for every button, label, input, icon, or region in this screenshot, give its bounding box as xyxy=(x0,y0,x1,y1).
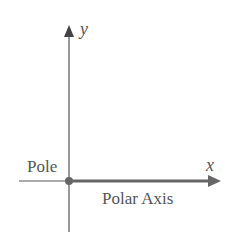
pole-label: Pole xyxy=(27,158,57,175)
y-axis-arrow-icon xyxy=(64,25,74,37)
polar-diagram xyxy=(0,0,229,248)
y-axis-label: y xyxy=(80,20,88,38)
x-axis-label: x xyxy=(206,156,214,174)
polar-axis-arrow-icon xyxy=(208,175,221,187)
polar-axis-label: Polar Axis xyxy=(102,190,173,207)
pole-dot xyxy=(65,177,73,185)
